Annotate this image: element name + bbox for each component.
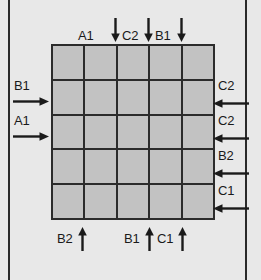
diagram-canvas: A1 C2 B1 B1 A1 C2 xyxy=(0,0,261,280)
grid-cell xyxy=(150,185,180,218)
cell-grid xyxy=(51,44,215,220)
left-arrow-label-2: A1 xyxy=(14,114,30,127)
top-arrow-label-1: A1 xyxy=(78,29,94,42)
grid-cell xyxy=(53,81,83,114)
up-arrow-icon-3 xyxy=(178,227,187,251)
grid-cell xyxy=(53,185,83,218)
frame-rule-left xyxy=(8,0,10,280)
right-arrow-icon-2 xyxy=(13,132,49,141)
grid-cell xyxy=(118,81,148,114)
grid-cell xyxy=(183,185,213,218)
right-arrow-label-1: C2 xyxy=(218,79,234,92)
grid-cell xyxy=(150,46,180,79)
grid-cell xyxy=(118,150,148,183)
grid-cell xyxy=(53,46,83,79)
top-arrow-label-3: B1 xyxy=(155,29,171,42)
grid-cell xyxy=(118,116,148,149)
left-arrow-icon-1 xyxy=(213,99,249,108)
grid-cell xyxy=(183,81,213,114)
up-arrow-icon-1 xyxy=(78,227,87,251)
right-arrow-label-3: B2 xyxy=(218,149,234,162)
down-arrow-icon-2 xyxy=(144,18,153,42)
left-arrow-icon-2 xyxy=(213,134,249,143)
left-arrow-label-1: B1 xyxy=(14,79,30,92)
grid-cell xyxy=(53,116,83,149)
grid-cell xyxy=(85,46,115,79)
grid-cell xyxy=(150,81,180,114)
grid-cell xyxy=(85,81,115,114)
right-arrow-icon-1 xyxy=(13,97,49,106)
grid-cell xyxy=(183,150,213,183)
down-arrow-icon-3 xyxy=(177,18,186,42)
left-arrow-icon-3 xyxy=(213,169,249,178)
grid-cell xyxy=(150,150,180,183)
top-arrow-label-2: C2 xyxy=(122,29,138,42)
right-arrow-label-2: C2 xyxy=(218,114,234,127)
grid-cell xyxy=(150,116,180,149)
up-arrow-icon-2 xyxy=(145,227,154,251)
grid-cell xyxy=(183,46,213,79)
grid-cell xyxy=(85,150,115,183)
down-arrow-icon-1 xyxy=(111,18,120,42)
bottom-arrow-label-1: B2 xyxy=(57,232,73,245)
bottom-arrow-label-2: B1 xyxy=(124,232,140,245)
grid-cell xyxy=(183,116,213,149)
grid-cell xyxy=(53,150,83,183)
bottom-arrow-label-3: C1 xyxy=(157,232,173,245)
grid-cell xyxy=(118,185,148,218)
grid-cell xyxy=(118,46,148,79)
left-arrow-icon-4 xyxy=(213,204,249,213)
grid-cell xyxy=(85,185,115,218)
grid-cell xyxy=(85,116,115,149)
right-arrow-label-4: C1 xyxy=(218,184,234,197)
